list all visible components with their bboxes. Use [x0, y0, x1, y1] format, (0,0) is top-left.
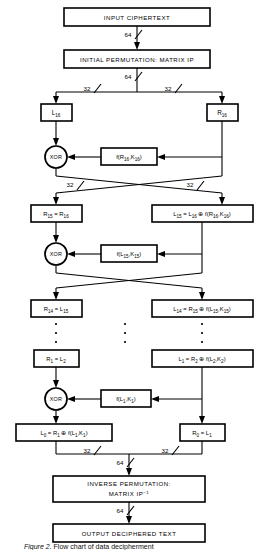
wire-f16-to-xor16 — [67, 154, 101, 160]
bit-width-32-left-r16: 32 — [67, 181, 74, 188]
box-r0: R0 = L1 — [180, 424, 225, 441]
wire-input-to-ip: 64 — [125, 26, 142, 50]
xor-node-round1-label: XOR — [50, 396, 63, 402]
box-r14: R14 = L15 — [31, 300, 82, 317]
xor-node-round16-label: XOR — [50, 154, 63, 160]
bit-width-64-top: 64 — [125, 31, 132, 38]
figure-caption-number: 2. — [46, 543, 52, 550]
box-f-l15-k15: f(L15,K15) — [101, 245, 157, 262]
box-r1: R1 = L2 — [34, 350, 79, 367]
box-r16: R16 — [207, 104, 238, 121]
wire-ip-split: 64 32 32 — [53, 68, 225, 104]
wire-xor1-to-l0 — [53, 410, 59, 424]
wire-r15-to-xor15 — [53, 222, 59, 243]
xor-node-round16: XOR — [45, 146, 67, 168]
bit-width-64-output: 64 — [117, 507, 124, 514]
box-initial-permutation-label: INITIAL PERMUTATION: MATRIX IP — [80, 56, 194, 63]
box-inverse-permutation-label-line2: MATRIX IP−1 — [109, 490, 150, 497]
wire-f15-to-xor15 — [67, 251, 101, 257]
bit-width-32-left-bottom: 32 — [84, 447, 91, 454]
box-inverse-permutation-label-line1: INVERSE PERMUTATION: — [87, 480, 171, 487]
xor-node-round15: XOR — [45, 243, 67, 265]
box-f-r16-k16: f(R16,K16) — [101, 148, 157, 165]
box-r15: R15 = R16 — [31, 205, 82, 222]
box-output-deciphered-text-label: OUTPUT DECIPHERED TEXT — [82, 530, 177, 537]
ellipsis-right — [201, 323, 203, 343]
ellipsis-center — [124, 323, 126, 343]
bit-width-64-ip: 64 — [125, 73, 132, 80]
wire-f1-to-xor1 — [67, 396, 101, 402]
wire-l15-to-f15 — [157, 222, 202, 257]
xor-node-round1: XOR — [45, 388, 67, 410]
box-l16: L16 — [41, 104, 72, 121]
wire-l16-to-xor16 — [53, 121, 59, 146]
xor-node-round15-label: XOR — [50, 251, 63, 257]
flowchart-canvas: INPUT CIPHERTEXT 64 INITIAL PERMUTATION:… — [0, 0, 257, 559]
figure-caption: Figure 2. Flow chart of data deciphermen… — [24, 543, 254, 550]
figure-caption-text: Flow chart of data decipherment — [54, 543, 154, 550]
box-input-ciphertext-label: INPUT CIPHERTEXT — [104, 14, 170, 21]
des-decipher-flowchart: INPUT CIPHERTEXT 64 INITIAL PERMUTATION:… — [0, 0, 257, 559]
bit-width-64-merge: 64 — [117, 459, 124, 466]
wire-l1-to-r0 — [199, 399, 205, 424]
box-initial-permutation: INITIAL PERMUTATION: MATRIX IP — [64, 50, 210, 68]
box-l1: L1 = R2 ⊕ f(L2,K2) — [152, 350, 253, 367]
bit-width-32-left-top: 32 — [84, 85, 91, 92]
box-output-deciphered-text: OUTPUT DECIPHERED TEXT — [53, 524, 205, 542]
box-f-l1-k1: f(L1,K1) — [101, 390, 151, 407]
box-input-ciphertext: INPUT CIPHERTEXT — [64, 8, 210, 26]
box-l14: L14 = R15 ⊕ f(L15,K15) — [152, 300, 253, 317]
ellipsis-left — [55, 323, 57, 343]
wire-inverse-permutation-to-output: 64 — [117, 502, 134, 524]
figure-caption-prefix: Figure — [24, 543, 44, 550]
box-l0: L0 = R1 ⊕ f(L1,K1) — [16, 424, 112, 441]
bit-width-32-right-top: 32 — [165, 85, 172, 92]
box-inverse-permutation: INVERSE PERMUTATION: MATRIX IP−1 — [53, 476, 205, 502]
wire-merge-to-inverse-permutation: 32 32 64 — [56, 441, 202, 476]
bit-width-32-right-r16: 32 — [187, 181, 194, 188]
wire-l1-to-f1 — [151, 367, 202, 402]
bit-width-32-right-bottom: 32 — [162, 447, 169, 454]
wire-r16-to-f16 — [157, 121, 222, 160]
box-l15: L15 = L16 ⊕ f(R16,K16) — [152, 205, 253, 222]
wire-r1-to-xor1 — [53, 367, 59, 388]
